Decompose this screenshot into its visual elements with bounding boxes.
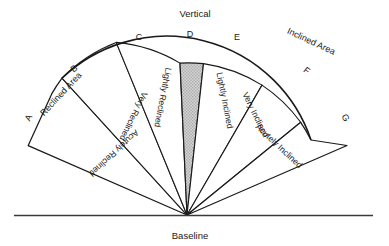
- marker-label-e: E: [234, 32, 240, 42]
- baseline-label: Baseline: [172, 230, 208, 241]
- seating-angle-fan-diagram: Vertical Baseline Reclined Area Inclined…: [0, 0, 389, 246]
- vertical-title: Vertical: [179, 8, 210, 19]
- marker-label-c: C: [136, 32, 143, 42]
- marker-label-d: D: [187, 29, 194, 39]
